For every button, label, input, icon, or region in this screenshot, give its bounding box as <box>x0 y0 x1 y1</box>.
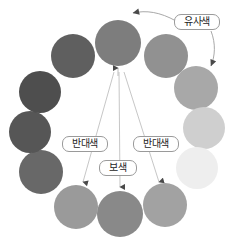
arrow-analogous-to-right <box>211 31 214 66</box>
swatch-lower-left <box>54 185 98 229</box>
label-opposite-right-text: 반대색 <box>143 139 169 149</box>
swatch-left <box>9 111 51 153</box>
label-analogous: 유사색 <box>174 14 220 30</box>
swatch-left-lower <box>19 150 63 194</box>
label-analogous-text: 유사색 <box>184 17 210 27</box>
swatch-right-upper <box>174 66 218 110</box>
label-complementary: 보색 <box>99 160 137 176</box>
swatch-left-upper <box>19 71 61 113</box>
swatch-top <box>95 20 141 66</box>
swatch-right <box>183 107 225 149</box>
color-wheel-diagram: 유사색 반대색 반대색 보색 <box>0 0 244 247</box>
label-opposite-right: 반대색 <box>133 136 179 152</box>
swatch-upper-left <box>51 34 95 78</box>
swatch-right-lower <box>176 147 218 189</box>
swatch-lower-right <box>143 183 187 227</box>
swatch-bottom <box>97 191 143 237</box>
label-opposite-left-text: 반대색 <box>72 139 98 149</box>
arrow-analogous-to-top <box>133 12 176 21</box>
label-complementary-text: 보색 <box>109 163 127 173</box>
label-opposite-left: 반대색 <box>62 136 108 152</box>
